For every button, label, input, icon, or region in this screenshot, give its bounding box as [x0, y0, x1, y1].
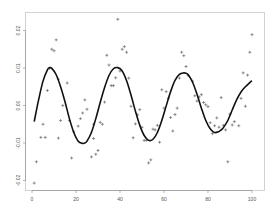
y-tick-label: 0.00 — [15, 100, 21, 110]
x-tick-label: 20 — [73, 196, 79, 202]
y-tick-label: -0.02 — [15, 175, 21, 187]
x-tick-label: 80 — [205, 196, 211, 202]
y-tick-label: 0.01 — [15, 63, 21, 73]
x-tick-label: 60 — [161, 196, 167, 202]
scatter-plot: -0.02-0.010.000.010.02 020406080100 — [0, 0, 276, 208]
x-tick-label: 0 — [31, 196, 34, 202]
y-tick-label: 0.02 — [15, 25, 21, 35]
x-tick-label: 40 — [117, 196, 123, 202]
y-tick-label: -0.01 — [15, 137, 21, 149]
x-tick-label: 100 — [248, 196, 257, 202]
